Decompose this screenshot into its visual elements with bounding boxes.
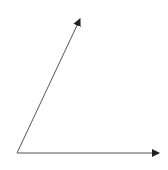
ray-upper bbox=[17, 19, 80, 153]
angle-diagram bbox=[0, 0, 168, 170]
